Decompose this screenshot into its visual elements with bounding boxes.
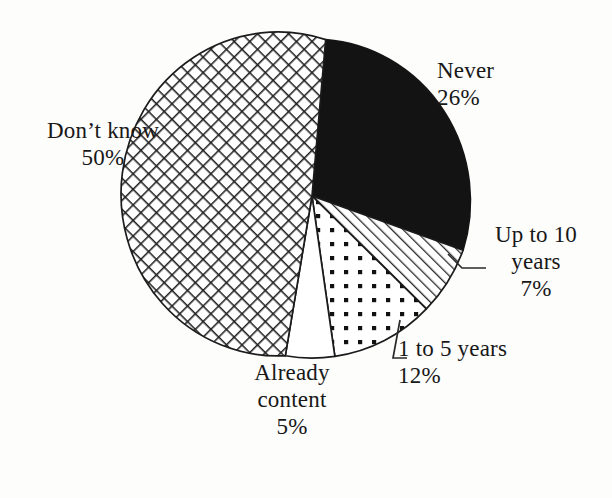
pie-label-dont-know: Don’t know 50%	[8, 118, 198, 172]
pie-label-up-to-10-years: Up to 10 years 7%	[470, 222, 602, 303]
pie-label-never: Never 26%	[437, 58, 577, 112]
pie-label-already-content: Already content 5%	[222, 360, 362, 441]
pie-label-1-to-5-years: 1 to 5 years 12%	[398, 336, 573, 390]
pie-chart-figure: Never 26% Don’t know 50% Up to 10 years …	[0, 0, 612, 498]
